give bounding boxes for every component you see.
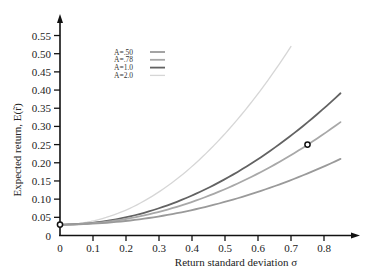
y-tick-label: 0.55: [32, 30, 52, 42]
y-axis-ticks: 00.050.100.150.200.250.300.350.400.450.5…: [32, 30, 60, 242]
x-axis-title: Return standard deviation σ: [175, 256, 297, 268]
x-tick-label: 0.2: [119, 242, 133, 254]
x-tick-label: 0.4: [185, 242, 199, 254]
y-tick-label: 0.15: [32, 175, 52, 187]
y-tick-label: 0: [46, 230, 52, 242]
y-tick-label: 0.40: [32, 84, 52, 96]
chart: 00.050.100.150.200.250.300.350.400.450.5…: [0, 0, 372, 277]
y-tick-label: 0.45: [32, 66, 52, 78]
x-tick-label: 0.3: [152, 242, 166, 254]
y-tick-label: 0.25: [32, 139, 52, 151]
y-axis-title: Expected return, E(r̃): [11, 103, 24, 196]
curve-a78: [60, 122, 341, 224]
annotation-points: [57, 142, 310, 227]
utility-curves: [60, 46, 341, 224]
marker-point-icon: [57, 222, 62, 227]
y-axis-arrow-icon: [57, 14, 63, 23]
y-tick-label: 0.50: [32, 48, 52, 60]
marker-point-icon: [305, 142, 310, 147]
legend: A=.50A=.78A=1.0A=2.0: [114, 48, 165, 80]
y-tick-label: 0.20: [32, 157, 52, 169]
x-tick-label: 0.1: [86, 242, 100, 254]
x-axis-ticks: 00.10.20.30.40.50.60.70.8: [57, 236, 331, 255]
x-tick-label: 0.8: [317, 242, 331, 254]
x-tick-label: 0.7: [284, 242, 298, 254]
curve-a20: [60, 46, 291, 224]
legend-label: A=2.0: [114, 71, 133, 80]
y-tick-label: 0.10: [32, 193, 52, 205]
x-axis-arrow-icon: [351, 233, 360, 239]
y-tick-label: 0.35: [32, 102, 52, 114]
x-tick-label: 0: [57, 242, 63, 254]
x-tick-label: 0.5: [218, 242, 232, 254]
x-tick-label: 0.6: [251, 242, 265, 254]
y-tick-label: 0.30: [32, 120, 52, 132]
y-tick-label: 0.05: [32, 211, 52, 223]
